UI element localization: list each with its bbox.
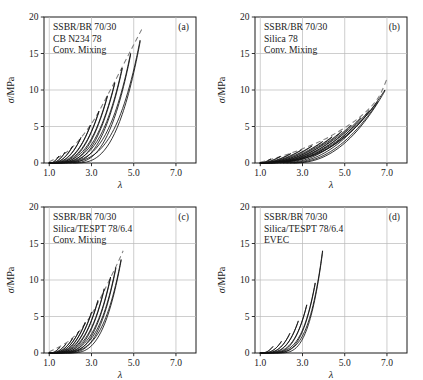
y-tick-label: 20: [240, 202, 250, 212]
panel-annotation-line: SSBR/BR 70/30: [53, 211, 116, 222]
y-tick-label: 15: [29, 49, 39, 59]
panel-tag: (d): [389, 211, 400, 223]
y-tick-label: 10: [29, 275, 39, 285]
panel-annotation-line: Conv. Mixing: [264, 44, 317, 55]
panel-tag: (c): [178, 211, 189, 223]
y-tick-label: 10: [240, 275, 250, 285]
x-tick-label: 7.0: [170, 358, 182, 368]
panel-a: 1.03.05.07.005101520λσ/MPaSSBR/BR 70/30C…: [0, 0, 211, 190]
panel-tag: (a): [178, 21, 189, 33]
x-tick-label: 1.0: [254, 168, 266, 178]
y-tick-label: 20: [29, 12, 39, 22]
y-tick-label: 5: [245, 312, 250, 322]
x-tick-label: 3.0: [86, 168, 98, 178]
panel-d-plot: 1.03.05.07.005101520λσ/MPaSSBR/BR 70/30S…: [211, 190, 422, 380]
panel-annotation-line: CB N234 78: [53, 33, 102, 44]
panel-c-plot: 1.03.05.07.005101520λσ/MPaSSBR/BR 70/30S…: [0, 190, 211, 380]
panel-annotation-line: SSBR/BR 70/30: [264, 211, 327, 222]
x-tick-label: 5.0: [339, 168, 351, 178]
panel-c: 1.03.05.07.005101520λσ/MPaSSBR/BR 70/30S…: [0, 190, 211, 380]
y-tick-label: 0: [245, 158, 250, 168]
panel-tag: (b): [389, 21, 400, 33]
y-tick-label: 20: [29, 202, 39, 212]
panel-b-plot: 1.03.05.07.005101520λσ/MPaSSBR/BR 70/30S…: [211, 0, 422, 190]
x-axis-title: λ: [117, 369, 123, 380]
x-tick-label: 3.0: [86, 358, 98, 368]
panel-d: 1.03.05.07.005101520λσ/MPaSSBR/BR 70/30S…: [211, 190, 422, 380]
y-tick-label: 15: [29, 239, 39, 249]
x-tick-label: 7.0: [170, 168, 182, 178]
y-tick-label: 0: [34, 348, 39, 358]
x-tick-label: 3.0: [297, 168, 309, 178]
y-axis-title: σ/MPa: [5, 266, 16, 293]
panel-a-plot: 1.03.05.07.005101520λσ/MPaSSBR/BR 70/30C…: [0, 0, 211, 190]
panel-annotation-line: Silica/TESPT 78/6.4: [264, 223, 343, 234]
panel-annotation-line: Conv. Mixing: [53, 44, 106, 55]
x-tick-label: 5.0: [128, 168, 140, 178]
y-tick-label: 0: [34, 158, 39, 168]
x-axis-title: λ: [328, 179, 334, 190]
y-tick-label: 20: [240, 12, 250, 22]
x-tick-label: 1.0: [43, 168, 55, 178]
panel-annotation-line: SSBR/BR 70/30: [53, 21, 116, 32]
x-tick-label: 3.0: [297, 358, 309, 368]
panel-annotation-line: Silica/TESPT 78/6.4: [53, 223, 132, 234]
y-tick-label: 5: [34, 312, 39, 322]
x-tick-label: 1.0: [43, 358, 55, 368]
stress-strain-figure: 1.03.05.07.005101520λσ/MPaSSBR/BR 70/30C…: [0, 0, 423, 380]
x-axis-title: λ: [328, 369, 334, 380]
y-tick-label: 0: [245, 348, 250, 358]
x-tick-label: 1.0: [254, 358, 266, 368]
y-axis-title: σ/MPa: [5, 76, 16, 103]
y-tick-label: 15: [240, 49, 250, 59]
x-tick-label: 5.0: [339, 358, 351, 368]
y-axis-title: σ/MPa: [216, 266, 227, 293]
panel-annotation-line: EVEC: [264, 234, 289, 245]
y-tick-label: 5: [245, 122, 250, 132]
panel-b: 1.03.05.07.005101520λσ/MPaSSBR/BR 70/30S…: [211, 0, 422, 190]
y-axis-title: σ/MPa: [216, 76, 227, 103]
x-tick-label: 7.0: [381, 168, 393, 178]
x-axis-title: λ: [117, 179, 123, 190]
panel-annotation-line: Silica 78: [264, 33, 298, 44]
y-tick-label: 10: [29, 85, 39, 95]
x-tick-label: 5.0: [128, 358, 140, 368]
y-tick-label: 15: [240, 239, 250, 249]
x-tick-label: 7.0: [381, 358, 393, 368]
y-tick-label: 10: [240, 85, 250, 95]
panel-annotation-line: SSBR/BR 70/30: [264, 21, 327, 32]
panel-annotation-line: Conv. Mixing: [53, 234, 106, 245]
y-tick-label: 5: [34, 122, 39, 132]
